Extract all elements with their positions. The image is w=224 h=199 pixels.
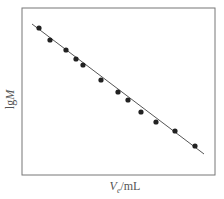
data-point — [138, 109, 143, 114]
data-point — [73, 56, 78, 61]
data-point — [80, 62, 85, 67]
data-point — [36, 25, 41, 30]
x-axis-label: Ve/mL — [95, 179, 155, 195]
data-point — [98, 77, 103, 82]
y-axis-label: lgM — [3, 80, 18, 120]
data-point — [125, 97, 130, 102]
chart — [0, 0, 224, 199]
data-points — [36, 25, 197, 148]
data-point — [47, 37, 52, 42]
data-point — [63, 47, 68, 52]
data-point — [153, 119, 158, 124]
data-point — [115, 89, 120, 94]
data-point — [172, 128, 177, 133]
fit-line — [32, 24, 204, 154]
data-point — [192, 143, 197, 148]
